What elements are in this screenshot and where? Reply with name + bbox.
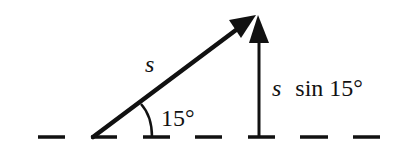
component-label-function: sin 15° — [295, 75, 363, 101]
component-label: s sin 15° — [272, 75, 363, 101]
component-label-variable: s — [272, 75, 281, 101]
vector-label: s — [145, 51, 154, 77]
angle-arc — [141, 104, 152, 137]
vector-diagram: s 15° s sin 15° — [0, 0, 406, 160]
vertical-component-arrow — [249, 15, 269, 137]
angle-label: 15° — [161, 105, 195, 131]
